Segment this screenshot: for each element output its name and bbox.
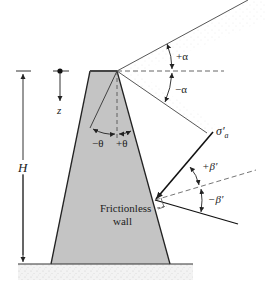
alpha-pos-label: +α [176,50,188,62]
backfill-lower [117,71,220,133]
z-origin-dot [57,68,62,73]
beta-neg-label: −β′ [208,193,224,205]
wall-label-line2: wall [113,215,132,227]
beta-neg-arc [201,189,202,212]
theta-neg-label: −θ [92,137,103,149]
backfill-upper [117,0,266,71]
retaining-wall [51,71,170,264]
ground-soil [18,264,193,280]
normal-reference [155,170,256,200]
lower-stress-line [155,200,238,224]
stress-label: σ′a [216,124,229,140]
theta-pos-label: +θ [116,137,127,149]
height-label: H [17,160,28,175]
beta-pos-arc [190,167,199,185]
retaining-wall-diagram: H z +α −α −θ +θ σ′a +β′ −β′ Frictionless… [0,0,266,291]
depth-label: z [56,104,62,116]
beta-pos-label: +β′ [202,160,218,172]
alpha-neg-label: −α [175,83,187,95]
wall-label-line1: Frictionless [100,202,151,214]
